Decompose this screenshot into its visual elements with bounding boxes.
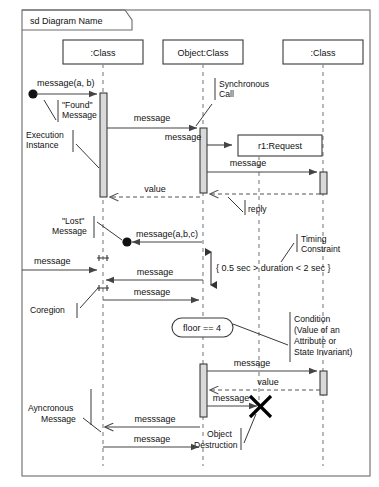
annotation-destroy-line2: Destruction — [194, 440, 238, 450]
annotation-lost-line1: "Lost" — [62, 216, 84, 226]
message-label-gate-to-1: message — [34, 256, 71, 266]
message-label-destroy: message — [213, 393, 250, 403]
coregion-marker-top — [97, 255, 109, 261]
sequence-diagram-canvas: sd Diagram Name :Class Object:Class :Cla… — [0, 0, 379, 487]
annotation-async-line2: Message — [41, 414, 76, 424]
leader-synchronous-call — [196, 104, 212, 126]
lost-message-end-dot — [122, 237, 131, 246]
timing-constraint-text: { 0.5 sec > duration < 2 sec } — [216, 263, 331, 273]
message-label-2to1-coregion: message — [137, 267, 174, 277]
leader-destruction — [244, 414, 256, 443]
message-label-found: message(a, b) — [37, 78, 95, 88]
annotation-reply: reply — [248, 204, 267, 214]
annotation-timing-line2: Constraint — [301, 244, 341, 254]
annotation-condition-line2: (Value of an — [294, 325, 340, 335]
state-invariant-label: floor == 4 — [183, 323, 221, 333]
message-label-2to-r1: message — [165, 132, 202, 142]
message-label-1to2-last: message — [134, 434, 171, 444]
annotation-sync-line1: Synchronous — [219, 79, 269, 89]
lifeline-label-class3: :Class — [310, 48, 336, 58]
leader-reply — [228, 197, 243, 212]
activation-bar-object-class-b — [200, 364, 207, 417]
annotation-timing-line1: Timing — [301, 234, 327, 244]
frame-label: sd Diagram Name — [30, 16, 103, 26]
leader-found-message — [44, 100, 56, 120]
lifeline-label-class1: :Class — [90, 48, 116, 58]
diagram-svg: sd Diagram Name :Class Object:Class :Cla… — [0, 0, 379, 487]
annotation-async-line1: Ayncronous — [28, 403, 73, 413]
lifeline-label-object-class: Object:Class — [177, 48, 229, 58]
annotation-exec-line1: Execution — [26, 130, 64, 140]
activation-bar-class1-a — [100, 93, 107, 197]
activation-bar-class3-a — [320, 172, 327, 194]
leader-lost-message — [97, 222, 122, 240]
leader-async-message — [83, 418, 101, 432]
annotation-exec-line2: Instance — [26, 140, 59, 150]
activation-bar-class3-b — [320, 371, 327, 395]
message-label-async: messsage — [134, 414, 175, 424]
leader-timing-constraint — [281, 243, 294, 262]
annotation-coregion: Coregion — [30, 305, 65, 315]
annotation-destroy-line1: Object — [207, 429, 232, 439]
annotation-lost-line2: Message — [52, 226, 87, 236]
message-label-value-bottom: value — [257, 377, 279, 387]
message-label-value: value — [144, 184, 166, 194]
annotation-condition-line4: State Invariant) — [294, 347, 352, 357]
message-label-1to2: message — [134, 113, 171, 123]
annotation-sync-line2: Call — [219, 89, 234, 99]
annotation-condition-line1: Condition — [294, 314, 331, 324]
annotation-found-line1: "Found" — [62, 100, 92, 110]
message-label-2to3: message — [230, 158, 267, 168]
leader-exec-instance — [76, 144, 99, 168]
annotation-found-line2: Message — [62, 110, 97, 120]
message-label-2to3-bottom: message — [234, 358, 271, 368]
created-object-label: r1:Request — [258, 141, 303, 151]
annotation-condition-line3: Attribute or — [294, 336, 336, 346]
leader-coregion — [80, 288, 98, 308]
message-label-lost: message(a,b,c) — [136, 229, 198, 239]
leader-condition — [233, 324, 288, 345]
message-label-1to2-coregion: message — [134, 287, 171, 297]
